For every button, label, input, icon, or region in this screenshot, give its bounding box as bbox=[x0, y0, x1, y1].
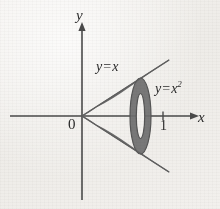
origin-label: 0 bbox=[68, 117, 76, 132]
annotation-y-equals-x-squared: y=x2 bbox=[155, 80, 182, 96]
annotation-parabola-exponent: 2 bbox=[177, 79, 182, 89]
figure-canvas: y x 0 1 y=x y=x2 bbox=[0, 0, 220, 209]
annotation-line-rhs: x bbox=[112, 59, 118, 74]
y-axis bbox=[78, 22, 85, 200]
washer-annulus bbox=[130, 78, 151, 154]
x-axis bbox=[10, 112, 199, 121]
annotation-y-equals-x: y=x bbox=[96, 60, 118, 74]
annotation-line-equals: = bbox=[102, 59, 112, 74]
solid-of-revolution-plot bbox=[0, 0, 220, 209]
y-axis-label: y bbox=[76, 8, 83, 23]
x-tick-label-1: 1 bbox=[160, 119, 167, 133]
curve-line-y-equals-x-mirror bbox=[82, 116, 169, 172]
x-axis-label: x bbox=[198, 110, 205, 125]
annotation-parabola-equals: = bbox=[161, 81, 171, 96]
